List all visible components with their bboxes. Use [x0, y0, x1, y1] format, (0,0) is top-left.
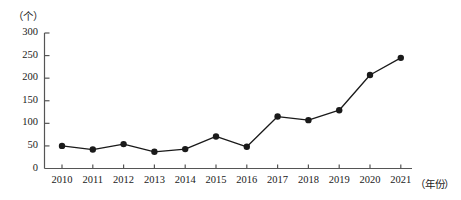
data-point-2020 [367, 72, 373, 78]
data-line [62, 58, 401, 152]
plot-area [0, 0, 461, 200]
line-chart: （个） （年份） 0 50 100 150 200 250 300 2010 2… [0, 0, 461, 200]
data-point-2013 [151, 149, 157, 155]
data-point-2014 [182, 146, 188, 152]
y-axis-ticks [45, 33, 50, 146]
data-point-2012 [120, 141, 126, 147]
data-point-2018 [305, 117, 311, 123]
data-point-2011 [90, 146, 96, 152]
data-markers [59, 55, 404, 155]
data-point-2015 [213, 133, 219, 139]
data-point-2017 [274, 113, 280, 119]
data-point-2016 [244, 144, 250, 150]
data-point-2010 [59, 143, 65, 149]
data-point-2021 [398, 55, 404, 61]
data-point-2019 [336, 107, 342, 113]
